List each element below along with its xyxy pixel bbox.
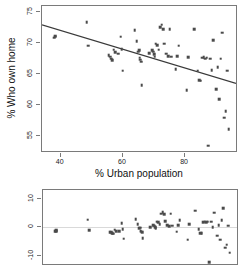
data-point (222, 207, 225, 210)
data-point (120, 48, 123, 51)
bottom-plot-frame (42, 189, 238, 265)
top-scatter-panel: 406080 5560657075 % Urban population % W… (0, 0, 246, 182)
x-tick-label: 60 (118, 158, 126, 165)
data-point (216, 234, 219, 237)
x-tick-mark (60, 153, 61, 157)
data-point (140, 60, 143, 63)
data-point (170, 55, 173, 58)
x-axis-title: % Urban population (95, 168, 183, 179)
bottom-residual-panel: -10010 (0, 182, 246, 276)
data-point (119, 36, 122, 39)
y-tick-label: -10 (27, 250, 34, 260)
data-point (226, 70, 229, 73)
data-point (118, 230, 121, 233)
data-point (140, 84, 143, 87)
y-axis-title: % Who own home (6, 37, 17, 118)
data-point (224, 246, 227, 249)
data-point (153, 55, 156, 58)
data-point (217, 224, 220, 227)
top-plot-frame (41, 5, 237, 152)
y-tick-label: 60 (26, 100, 33, 108)
y-tick-mark (37, 226, 41, 227)
data-point (164, 220, 167, 223)
data-point (210, 221, 213, 224)
data-point (211, 226, 214, 229)
data-point (215, 88, 218, 91)
y-tick-label: 65 (26, 69, 33, 77)
x-tick-label: 40 (56, 158, 64, 165)
data-point (223, 116, 226, 119)
data-point (87, 219, 90, 222)
x-tick-mark (184, 153, 185, 157)
data-point (175, 230, 178, 233)
data-point (207, 144, 210, 147)
data-point (55, 229, 58, 232)
data-point (220, 57, 223, 60)
data-point (112, 233, 115, 236)
y-tick-mark (37, 255, 41, 256)
data-point (224, 110, 227, 113)
y-tick-label: 75 (26, 7, 33, 15)
data-point (122, 70, 125, 73)
data-point (157, 49, 160, 52)
data-point (227, 225, 230, 228)
data-point (171, 225, 174, 228)
data-point (134, 218, 137, 221)
data-point (168, 28, 171, 31)
data-point (221, 31, 224, 34)
data-point (156, 44, 159, 47)
data-point (221, 219, 224, 222)
data-point (162, 28, 165, 31)
data-point (210, 69, 213, 72)
data-point (227, 128, 230, 131)
y-tick-mark (36, 104, 40, 105)
data-point (169, 212, 172, 215)
data-point (158, 223, 161, 226)
x-tick-label: 80 (180, 158, 188, 165)
data-point (186, 238, 189, 241)
regression-line (42, 6, 236, 151)
data-point (200, 232, 203, 235)
y-tick-label: 70 (26, 38, 33, 46)
data-point (174, 68, 177, 71)
data-point (54, 34, 57, 37)
data-point (160, 23, 163, 26)
data-point (137, 223, 140, 226)
data-point (117, 52, 120, 55)
bottom-plot-area (43, 190, 237, 264)
data-point (88, 229, 91, 232)
y-tick-mark (36, 135, 40, 136)
data-point (86, 21, 89, 24)
data-point (141, 237, 144, 240)
data-point (187, 56, 190, 59)
data-point (87, 44, 90, 47)
y-tick-mark (36, 73, 40, 74)
y-tick-mark (36, 42, 40, 43)
data-point (194, 209, 197, 212)
data-point (123, 237, 126, 240)
data-point (216, 66, 219, 69)
data-point (178, 44, 181, 47)
data-point (185, 89, 188, 92)
data-point (209, 57, 212, 60)
data-point (208, 261, 211, 264)
data-point (228, 251, 231, 254)
data-point (176, 55, 179, 58)
data-point (188, 223, 191, 226)
figure-root: 406080 5560657075 % Urban population % W… (0, 0, 246, 276)
data-point (120, 222, 123, 225)
data-point (138, 49, 141, 52)
data-point (179, 219, 182, 222)
data-point (225, 243, 228, 246)
data-point (163, 42, 166, 45)
data-point (177, 224, 180, 227)
data-point (121, 228, 124, 231)
data-point (133, 29, 136, 32)
data-point (111, 59, 114, 62)
data-point (193, 28, 196, 31)
y-tick-mark (36, 11, 40, 12)
data-point (199, 79, 202, 82)
data-point (212, 39, 215, 42)
data-point (197, 228, 200, 231)
y-tick-label: 0 (27, 224, 34, 228)
